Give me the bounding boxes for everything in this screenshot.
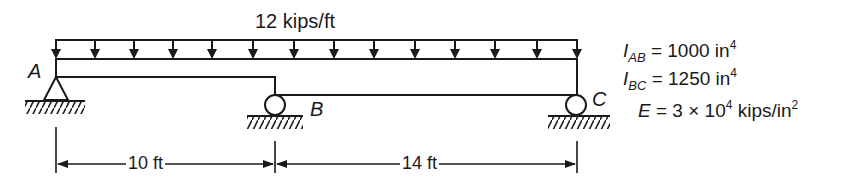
beam-segment-ab [56, 59, 275, 95]
property-e: E = 3 × 104 kips/in2 [638, 98, 798, 122]
node-label-a: A [28, 60, 41, 83]
span-bc-dimension: 14 ft [400, 153, 439, 174]
beam [56, 59, 577, 95]
property-i-ab: IAB = 1000 in4 [623, 38, 736, 65]
roller-support-b [247, 95, 303, 129]
load-arrowheads [51, 49, 582, 59]
property-i-bc: IBC = 1250 in4 [623, 66, 737, 93]
span-ab-dimension: 10 ft [126, 153, 165, 174]
node-label-c: C [592, 88, 606, 111]
load-label: 12 kips/ft [255, 10, 335, 33]
node-label-b: B [310, 98, 323, 121]
beam-segment-bc [275, 59, 577, 95]
